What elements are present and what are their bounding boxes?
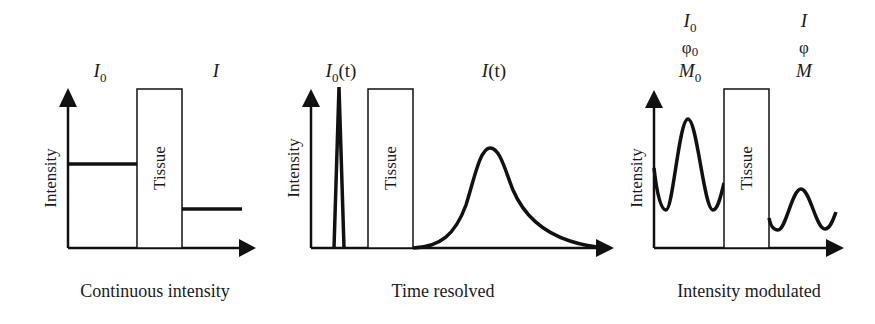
panel-intensity-modulated: Tissue Intensity I0 φ0 M0 I φ M Intensit… <box>627 10 844 301</box>
input-label-modulation: M0 <box>678 60 701 85</box>
caption-continuous: Continuous intensity <box>80 281 230 301</box>
caption-intensity-modulated: Intensity modulated <box>677 281 820 301</box>
output-label-intensity: I <box>800 10 809 31</box>
y-axis-label: Intensity <box>284 138 303 198</box>
input-sine-wave <box>654 119 724 210</box>
diagram-canvas: Tissue Intensity I0 I Continuous intensi… <box>0 0 875 324</box>
y-axis-arrow-icon <box>59 88 77 107</box>
output-pulse-curve <box>413 148 605 248</box>
tissue-label: Tissue <box>737 146 756 190</box>
input-label: I0 <box>93 60 107 85</box>
y-axis-label: Intensity <box>627 148 646 208</box>
y-axis-label: Intensity <box>41 148 60 208</box>
input-label-intensity: I0 <box>683 10 697 35</box>
output-sine-wave <box>769 189 836 230</box>
output-label: I(t) <box>481 60 506 82</box>
input-label: I0(t) <box>325 60 357 85</box>
x-axis-arrow-icon <box>239 239 256 257</box>
input-pulse <box>334 87 344 248</box>
output-label: I <box>212 60 221 81</box>
output-label-modulation: M <box>795 60 813 81</box>
tissue-label: Tissue <box>150 146 169 190</box>
panel-continuous: Tissue Intensity I0 I Continuous intensi… <box>41 60 256 301</box>
tissue-label: Tissue <box>381 146 400 190</box>
y-axis-arrow-icon <box>645 90 663 108</box>
y-axis-arrow-icon <box>302 89 320 107</box>
figure-measurement-modes: Tissue Intensity I0 I Continuous intensi… <box>0 0 875 324</box>
output-label-phase: φ <box>799 38 809 57</box>
panel-time-resolved: Tissue Intensity I0(t) I(t) Time resolve… <box>284 60 614 301</box>
x-axis-arrow-icon <box>826 239 844 257</box>
caption-time-resolved: Time resolved <box>392 281 495 301</box>
input-label-phase: φ0 <box>682 38 698 59</box>
